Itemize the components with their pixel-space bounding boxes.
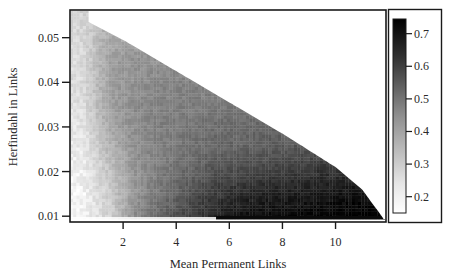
x-tick-label: 10 [330, 235, 342, 249]
colorbar-tick-label: 0.7 [414, 27, 429, 41]
colorbar-tick-label: 0.5 [414, 92, 429, 106]
colorbar-tick-label: 0.4 [414, 124, 429, 138]
empty-bottom-left [70, 217, 216, 220]
chart-canvas: 246810 0.010.020.030.040.05 Mean Permane… [0, 0, 449, 275]
x-tick-label: 6 [226, 235, 232, 249]
x-tick-label: 4 [173, 235, 179, 249]
heatmap-chart: 246810 0.010.020.030.040.05 Mean Permane… [0, 0, 449, 275]
colorbar-tick-label: 0.2 [414, 190, 429, 204]
colorbar-gradient [393, 19, 406, 213]
x-axis-label: Mean Permanent Links [170, 257, 287, 271]
y-tick-label: 0.01 [38, 209, 59, 223]
y-axis-label: Herfindahl in Links [6, 68, 20, 167]
x-axis: 246810 [120, 222, 341, 249]
y-axis: 0.010.020.030.040.05 [38, 31, 70, 224]
y-tick-label: 0.02 [38, 165, 59, 179]
y-tick-label: 0.05 [38, 31, 59, 45]
colorbar-tick-label: 0.3 [414, 157, 429, 171]
x-tick-label: 8 [279, 235, 285, 249]
y-tick-label: 0.03 [38, 120, 59, 134]
y-tick-label: 0.04 [38, 75, 59, 89]
colorbar-tick-label: 0.6 [414, 59, 429, 73]
x-tick-label: 2 [120, 235, 126, 249]
